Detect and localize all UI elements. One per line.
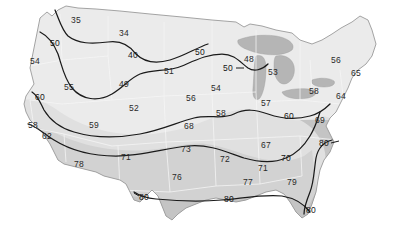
contour-value-label: 40	[128, 51, 138, 60]
station-value-label: 64	[336, 92, 346, 101]
station-value-label: 58	[216, 109, 226, 118]
land-fill-group	[0, 0, 396, 225]
station-value-label: 49	[119, 80, 129, 89]
station-value-label: 65	[351, 69, 361, 78]
contour-map-figure: 4050505060607080808080 35345451494853566…	[0, 0, 396, 225]
station-value-label: 72	[220, 155, 230, 164]
station-value-label: 79	[287, 178, 297, 187]
contour-value-label: 50	[50, 39, 60, 48]
station-value-label: 67	[261, 141, 271, 150]
station-value-label: 34	[119, 29, 129, 38]
station-value-label: 52	[129, 104, 139, 113]
contour-value-label: 80	[306, 206, 316, 215]
contour-value-label: 80	[139, 193, 149, 202]
contour-value-label: 80	[319, 139, 329, 148]
station-value-label: 77	[243, 178, 253, 187]
station-value-label: 58	[309, 87, 319, 96]
station-value-label: 71	[121, 153, 131, 162]
station-value-label: 53	[268, 68, 278, 77]
station-value-label: 48	[244, 55, 254, 64]
station-value-label: 59	[89, 121, 99, 130]
contour-value-label: 80	[224, 195, 234, 204]
contour-value-label: 50	[223, 64, 233, 73]
station-value-label: 71	[258, 164, 268, 173]
station-value-label: 78	[74, 160, 84, 169]
station-value-label: 51	[164, 67, 174, 76]
station-value-label: 69	[315, 116, 325, 125]
contour-value-label: 70	[281, 154, 291, 163]
contour-value-label: 60	[35, 93, 45, 102]
contour-value-label: 50	[195, 48, 205, 57]
station-value-label: 56	[331, 56, 341, 65]
station-value-label: 54	[30, 57, 40, 66]
station-value-label: 76	[172, 173, 182, 182]
station-value-label: 35	[71, 16, 81, 25]
contour-value-label: 60	[284, 112, 294, 121]
station-value-label: 58	[28, 121, 38, 130]
station-value-label: 73	[181, 145, 191, 154]
station-value-label: 56	[186, 94, 196, 103]
station-value-label: 62	[42, 132, 52, 141]
station-value-label: 55	[64, 83, 74, 92]
station-value-label: 54	[211, 84, 221, 93]
us-contour-map-svg	[0, 0, 396, 225]
station-value-label: 57	[261, 99, 271, 108]
station-value-label: 68	[184, 122, 194, 131]
